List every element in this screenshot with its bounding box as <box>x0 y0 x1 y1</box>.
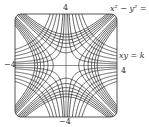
label-x2-y2-c: x² − y² = c <box>110 5 149 13</box>
hyperbola-plot <box>0 0 149 127</box>
label-bottom-neg4: −4 <box>59 118 71 126</box>
label-left-neg4: −4 <box>4 61 16 69</box>
label-top-4: 4 <box>63 4 68 12</box>
label-xy-k: xy = k <box>119 52 145 60</box>
label-right-4: 4 <box>121 67 126 75</box>
